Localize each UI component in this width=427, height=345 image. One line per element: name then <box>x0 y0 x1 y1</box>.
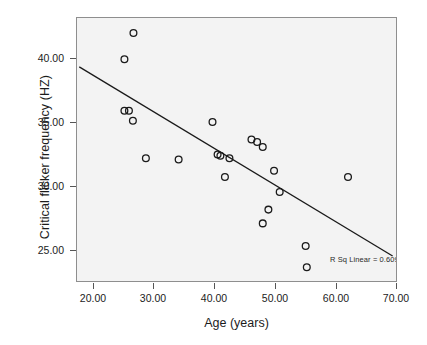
x-tick-mark-70 <box>396 283 397 289</box>
data-point <box>259 144 266 151</box>
regression-line <box>79 67 392 256</box>
data-point <box>265 206 272 213</box>
plot-canvas <box>77 18 396 281</box>
data-point <box>271 167 278 174</box>
data-point <box>130 30 137 37</box>
y-tick-label-35: 35.00 <box>16 116 64 128</box>
trend-line-segment <box>79 67 392 256</box>
x-tick-mark-60 <box>336 283 337 289</box>
data-point <box>302 243 309 250</box>
x-tick-label-60: 60.00 <box>323 292 349 304</box>
x-tick-label-70: 70.00 <box>383 292 409 304</box>
data-point <box>143 155 150 162</box>
data-point <box>345 174 352 181</box>
y-tick-label-25: 25.00 <box>16 244 64 256</box>
x-tick-mark-40 <box>214 283 215 289</box>
data-point <box>121 56 128 63</box>
x-tick-label-20: 20.00 <box>80 292 106 304</box>
data-point <box>259 220 266 227</box>
data-point <box>276 189 283 196</box>
data-point <box>222 174 229 181</box>
data-point <box>126 107 133 114</box>
y-tick-label-40: 40.00 <box>16 52 64 64</box>
x-tick-label-30: 30.00 <box>140 292 166 304</box>
data-point-group <box>121 30 351 271</box>
scatter-plot-figure: Critical flicker frequency (HZ) 25.00 30… <box>0 0 427 345</box>
data-point <box>175 156 182 163</box>
data-point <box>209 119 216 126</box>
x-axis-title: Age (years) <box>76 316 397 330</box>
x-tick-mark-20 <box>93 283 94 289</box>
x-tick-label-40: 40.00 <box>201 292 227 304</box>
data-point <box>130 117 137 124</box>
x-tick-mark-50 <box>275 283 276 289</box>
r-squared-annotation: R Sq Linear = 0.609 <box>330 255 397 264</box>
plot-area: R Sq Linear = 0.609 <box>76 17 397 282</box>
data-point <box>254 139 261 146</box>
data-point <box>303 264 310 271</box>
x-tick-mark-30 <box>153 283 154 289</box>
y-tick-label-30: 30.00 <box>16 180 64 192</box>
x-tick-label-50: 50.00 <box>262 292 288 304</box>
